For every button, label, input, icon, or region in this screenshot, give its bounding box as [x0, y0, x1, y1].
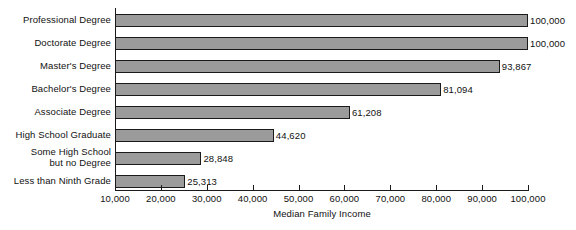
x-axis-tick [207, 185, 208, 190]
bar-value-less-than-ninth-grade: 25,313 [187, 175, 217, 188]
x-axis-tick [253, 185, 254, 190]
category-label-associate-degree: Associate Degree [34, 107, 111, 118]
category-label-less-than-ninth-grade: Less than Ninth Grade [14, 176, 111, 187]
x-axis-tick [436, 185, 437, 190]
category-label-professional-degree: Professional Degree [23, 15, 111, 26]
bar-masters-degree [115, 60, 500, 73]
bar-value-high-school-graduate: 44,620 [276, 129, 306, 142]
bar-value-some-high-school: 28,848 [203, 152, 233, 165]
x-axis-tick [161, 185, 162, 190]
horizontal-bar-chart: Professional Degree Doctorate Degree Mas… [0, 0, 576, 230]
x-axis-tick-label: 20,000 [146, 193, 176, 204]
x-axis-line [115, 190, 529, 191]
x-axis-tick-label: 70,000 [375, 193, 405, 204]
x-axis-tick-label: 90,000 [467, 193, 497, 204]
bar-value-doctorate-degree: 100,000 [530, 37, 565, 50]
x-axis-tick-label: 40,000 [238, 193, 268, 204]
x-axis-tick [390, 185, 391, 190]
x-axis-tick [528, 185, 529, 190]
x-axis-tick [299, 185, 300, 190]
bar-value-professional-degree: 100,000 [530, 14, 565, 27]
category-label-some-high-school: Some High School but no Degree [31, 147, 111, 168]
bar-less-than-ninth-grade [115, 175, 185, 188]
bar-bachelors-degree [115, 83, 441, 96]
bar-some-high-school [115, 152, 201, 165]
category-label-high-school-graduate: High School Graduate [16, 130, 111, 141]
plot-area: 100,000 100,000 93,867 81,094 61,208 44,… [115, 8, 528, 190]
x-axis-tick-label: 60,000 [330, 193, 360, 204]
bar-associate-degree [115, 106, 350, 119]
bar-doctorate-degree [115, 37, 528, 50]
y-axis-line [115, 8, 116, 190]
x-axis-tick-label: 100,000 [510, 193, 545, 204]
x-axis-tick [344, 185, 345, 190]
x-axis-tick-label: 30,000 [192, 193, 222, 204]
category-label-bachelors-degree: Bachelor's Degree [31, 84, 111, 95]
x-axis-tick [115, 185, 116, 190]
category-label-doctorate-degree: Doctorate Degree [34, 38, 111, 49]
x-axis-tick-label: 10,000 [100, 193, 130, 204]
x-axis-title: Median Family Income [115, 208, 529, 219]
category-label-masters-degree: Master's Degree [40, 61, 111, 72]
bar-high-school-graduate [115, 129, 274, 142]
bar-value-masters-degree: 93,867 [502, 60, 532, 73]
bar-professional-degree [115, 14, 528, 27]
x-axis-tick [482, 185, 483, 190]
x-axis-tick-label: 80,000 [421, 193, 451, 204]
bar-value-bachelors-degree: 81,094 [443, 83, 473, 96]
bar-value-associate-degree: 61,208 [352, 106, 382, 119]
x-axis-tick-label: 50,000 [284, 193, 314, 204]
